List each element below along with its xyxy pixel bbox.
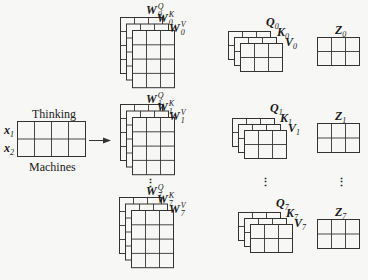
ellipsis-qkv: ⋮ xyxy=(260,180,266,184)
z-matrix-7 xyxy=(318,220,360,249)
input-embedding-matrix xyxy=(18,122,86,157)
weight-matrix-wv-0 xyxy=(133,31,175,88)
input-row-label-x2: x2 xyxy=(4,142,14,157)
input-bottom-label: Machines xyxy=(29,161,76,173)
v-matrix-7 xyxy=(251,225,293,253)
v-label-7: V7 xyxy=(294,217,306,232)
input-top-label: Thinking xyxy=(32,108,76,120)
v-matrix-0 xyxy=(241,44,283,72)
weight-label-wv-7: WV7 xyxy=(169,202,186,218)
ellipsis-z: ⋮ xyxy=(336,180,342,184)
z-label-0: Z0 xyxy=(335,24,346,39)
weight-label-wv-0: WV0 xyxy=(169,21,186,37)
z-label-7: Z7 xyxy=(335,206,346,221)
input-row-label-x1: x1 xyxy=(4,124,14,139)
arrow-icon xyxy=(89,138,111,144)
v-label-0: V0 xyxy=(285,36,297,51)
weight-label-wv-1: WV1 xyxy=(169,109,186,125)
z-matrix-1 xyxy=(318,124,360,153)
weight-matrix-wv-7 xyxy=(132,211,174,268)
v-matrix-1 xyxy=(245,131,287,159)
z-matrix-0 xyxy=(318,38,360,66)
z-label-1: Z1 xyxy=(335,110,346,125)
weight-matrix-wv-1 xyxy=(133,118,175,175)
v-label-1: V1 xyxy=(288,122,300,137)
multi-head-attention-diagram xyxy=(0,0,368,280)
